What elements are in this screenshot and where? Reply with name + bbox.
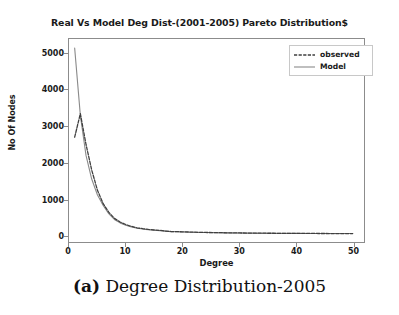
figure-caption: (a) Degree Distribution-2005 (0, 276, 399, 296)
chart-title: Real Vs Model Deg Dist-(2001-2005) Paret… (0, 17, 399, 28)
legend-swatch-observed-icon (294, 51, 315, 59)
x-tick-mark (68, 243, 69, 247)
y-tick-mark (64, 126, 68, 127)
x-tick-mark (239, 243, 240, 247)
figure-degree-distribution: Real Vs Model Deg Dist-(2001-2005) Paret… (0, 0, 399, 315)
legend-item-observed: observed (294, 49, 368, 61)
plot-area: observed Model (68, 38, 365, 243)
y-tick-label: 4000 (30, 85, 64, 94)
figure-caption-tag: (a) (73, 276, 100, 296)
y-tick-label: 5000 (30, 48, 64, 57)
y-tick-mark (64, 200, 68, 201)
x-tick-mark (354, 243, 355, 247)
x-tick-label: 20 (162, 247, 202, 256)
x-tick-label: 0 (48, 247, 88, 256)
x-tick-label: 40 (276, 247, 316, 256)
y-tick-label: 3000 (30, 122, 64, 131)
chart-container: Real Vs Model Deg Dist-(2001-2005) Paret… (0, 0, 399, 272)
x-tick-mark (296, 243, 297, 247)
y-tick-mark (64, 163, 68, 164)
chart-legend: observed Model (289, 45, 373, 76)
y-tick-mark (64, 89, 68, 90)
figure-caption-text: Degree Distribution-2005 (100, 276, 326, 296)
x-tick-label: 10 (105, 247, 145, 256)
y-axis-label: No Of Nodes (8, 78, 17, 168)
y-tick-mark (64, 53, 68, 54)
line-observed (75, 114, 353, 234)
y-tick-label: 0 (30, 232, 64, 241)
x-tick-mark (182, 243, 183, 247)
y-tick-mark (64, 236, 68, 237)
legend-swatch-model-icon (294, 63, 315, 71)
x-axis-label: Degree (68, 258, 365, 268)
y-tick-label: 1000 (30, 195, 64, 204)
x-tick-label: 30 (219, 247, 259, 256)
legend-item-model: Model (294, 61, 368, 73)
x-tick-mark (125, 243, 126, 247)
legend-label-model: Model (320, 62, 346, 72)
x-tick-label: 50 (334, 247, 374, 256)
y-axis-tick-labels: 010002000300040005000 (26, 38, 64, 243)
y-tick-label: 2000 (30, 158, 64, 167)
legend-label-observed: observed (320, 50, 360, 60)
